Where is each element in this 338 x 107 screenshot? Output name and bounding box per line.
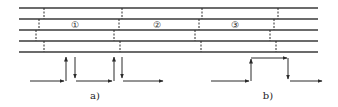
caption-a: a) — [90, 90, 100, 101]
strip-lines — [19, 8, 318, 52]
strip-seam-diagram: ①②③ a) b) — [0, 0, 338, 107]
subfigure-a-arrows — [30, 57, 163, 81]
section-labels: ①②③ — [71, 20, 239, 30]
section-label-1: ① — [71, 20, 79, 30]
section-label-3: ③ — [231, 20, 239, 30]
section-label-2: ② — [153, 20, 161, 30]
caption-b: b) — [263, 90, 273, 101]
subfigure-b-arrows — [211, 58, 322, 81]
